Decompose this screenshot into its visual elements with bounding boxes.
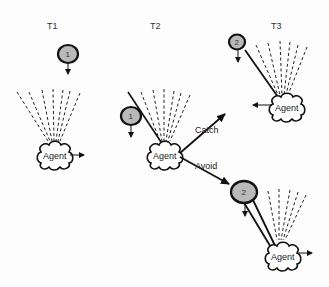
vision-rays [268,189,306,240]
ball-1-icon: 1 [58,45,78,74]
ball-1-icon: 1 [121,107,141,137]
diagram-canvas: T1 1 Agent T2 [0,0,329,287]
agent-label: Agent [153,151,177,161]
time-label-t1: T1 [47,21,58,31]
agent-cloud-icon: Agent [37,141,73,170]
avoid-transition: Avoid [180,157,229,184]
panel-t1: T1 1 Agent [17,21,84,170]
catch-label: Catch [195,125,219,135]
panel-t2: T2 1 Agent [121,21,190,170]
vision-rays [141,89,190,141]
ball-number: 1 [66,50,71,59]
vision-rays [256,41,307,95]
vision-rays [17,89,80,141]
ball-number: 1 [129,112,134,121]
catch-transition: Catch [180,114,225,153]
panel-t3-catch: T3 2 Agent [229,21,307,122]
ball-2-icon: 2 [229,35,245,63]
agent-label: Agent [271,252,295,262]
panel-t3-avoid: 2 Agent [231,181,312,271]
time-label-t3: T3 [271,21,282,31]
ball-number: 2 [235,38,240,47]
time-label-t2: T2 [150,21,161,31]
agent-label: Agent [43,151,67,161]
agent-label: Agent [275,103,299,113]
avoid-label: Avoid [195,161,217,171]
ball-2-icon: 2 [231,181,257,216]
agent-cloud-icon: Agent [147,141,183,170]
agent-cloud-icon: Agent [269,93,305,122]
ball-number: 2 [242,188,247,197]
agent-cloud-icon: Agent [265,242,301,271]
